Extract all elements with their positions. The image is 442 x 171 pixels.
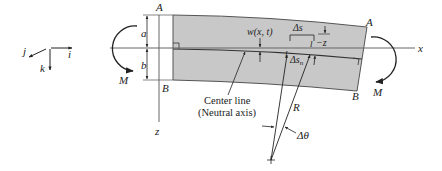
dim-b-label: b — [141, 59, 147, 71]
x-axis-label: x — [417, 42, 423, 54]
corner-a-right: A — [365, 16, 373, 28]
delta-theta-arrow-right — [285, 127, 296, 133]
moment-arrow-right — [371, 37, 396, 82]
radius-label: R — [292, 101, 300, 113]
neutral-axis-label: (Neutral axis) — [198, 107, 257, 119]
dim-a-label: a — [141, 27, 147, 39]
delta-theta-label: Δθ — [296, 129, 309, 141]
beam-bending-diagram: j i k x z a b A B A B M M w(x, t) — [0, 0, 442, 171]
z-axis-label: z — [154, 125, 160, 137]
corner-b-left: B — [162, 82, 169, 94]
delta-s-label: Δs — [292, 22, 303, 33]
center-line-label: Center line — [204, 95, 251, 106]
deflection-label: w(x, t) — [247, 26, 273, 38]
corner-b-right: B — [352, 90, 359, 102]
moment-right-label: M — [372, 86, 383, 98]
moment-left-label: M — [118, 74, 129, 86]
corner-a-left: A — [155, 1, 163, 13]
j-label: j — [21, 45, 26, 57]
delta-theta-arrow-left — [262, 126, 274, 127]
k-label: k — [40, 62, 46, 74]
i-label: i — [68, 48, 71, 60]
coordinate-system: j i k — [21, 45, 72, 74]
minus-z-label: −z — [316, 37, 327, 48]
